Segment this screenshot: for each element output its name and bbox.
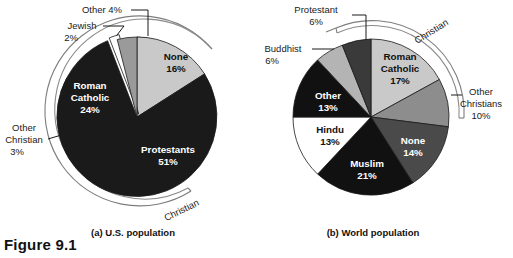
world-callout-other-christians-line1: Other [469, 86, 493, 97]
world-label-muslim-value: 21% [357, 170, 377, 181]
us-callout-jewish-value: 2% [64, 32, 78, 43]
figure-number-label: Figure 9.1 [4, 236, 77, 253]
world-chart-caption: (b) World population [327, 227, 420, 238]
world-label-other-value: 13% [318, 102, 338, 113]
us-label-roman-catholic-value: 24% [80, 104, 100, 115]
world-label-roman-catholic-value: 17% [390, 75, 410, 86]
us-label-protestants-value: 51% [158, 156, 178, 167]
figure-9-1: None 16% Protestants 51% Roman Catholic … [0, 0, 513, 258]
us-chart-caption: (a) U.S. population [91, 227, 175, 238]
world-label-roman-catholic-line2: Catholic [381, 63, 420, 74]
us-callout-other-christian-line2: Christian [5, 134, 43, 145]
us-christian-bracket-label: Christian [162, 197, 201, 223]
us-label-none-value: 16% [166, 63, 186, 74]
world-population-pie-chart: Roman Catholic 17% None 14% Muslim 21% H… [265, 4, 503, 238]
us-callout-other-leader [131, 10, 148, 36]
figure-canvas: None 16% Protestants 51% Roman Catholic … [0, 0, 513, 258]
world-label-hindu-name: Hindu [316, 124, 344, 135]
world-callout-buddhist-value: 6% [265, 55, 279, 66]
world-callout-buddhist-name: Buddhist [265, 43, 302, 54]
us-label-roman-catholic-line1: Roman [73, 80, 106, 91]
world-label-none-value: 14% [403, 147, 423, 158]
world-label-roman-catholic-line1: Roman [383, 51, 416, 62]
world-christian-bracket-label: Christian [412, 16, 450, 45]
world-callout-protestant-name: Protestant [294, 4, 338, 15]
world-label-muslim-name: Muslim [350, 158, 384, 169]
us-label-none-name: None [164, 51, 189, 62]
us-callout-other: Other 4% [82, 4, 123, 15]
world-callout-other-christians-value: 10% [471, 110, 491, 121]
world-label-none-name: None [401, 135, 426, 146]
world-label-hindu-value: 13% [320, 136, 340, 147]
us-callout-other-christian-line1: Other [12, 122, 36, 133]
world-label-other-name: Other [315, 90, 341, 101]
world-callout-other-christians-line2: Christians [460, 98, 502, 109]
us-population-pie-chart: None 16% Protestants 51% Roman Catholic … [5, 4, 217, 238]
us-label-protestants-name: Protestants [141, 144, 195, 155]
us-callout-other-christian-value: 3% [10, 146, 24, 157]
world-callout-protestant-value: 6% [309, 16, 323, 27]
us-label-roman-catholic-line2: Catholic [71, 92, 110, 103]
us-callout-jewish-name: Jewish [67, 20, 96, 31]
